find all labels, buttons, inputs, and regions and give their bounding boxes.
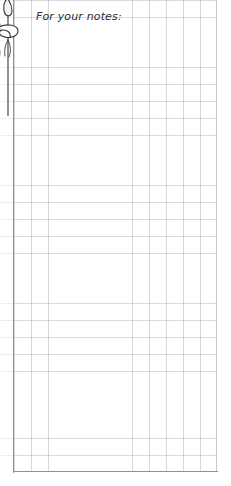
graph-paper-grid (14, 0, 217, 472)
grid-left-border (13, 0, 14, 473)
grid-bottom-border (13, 471, 218, 472)
grid-right-border (216, 0, 217, 472)
grid-left-margin (0, 0, 14, 472)
page-title: For your notes: (36, 10, 122, 23)
notes-page: For your notes: (0, 0, 231, 486)
